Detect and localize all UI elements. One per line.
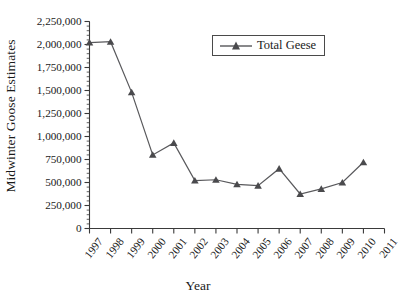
data-point-marker <box>275 165 283 172</box>
x-axis-title: Year <box>0 278 396 294</box>
data-point-marker <box>170 139 178 146</box>
y-tick-label: 750,000 <box>45 154 81 165</box>
y-tick-label: 1,250,000 <box>37 108 82 119</box>
data-point-marker <box>360 159 368 166</box>
y-tick-label: 1,500,000 <box>37 85 82 96</box>
y-tick-label: 500,000 <box>45 177 81 188</box>
y-tick-label: 2,000,000 <box>37 39 82 50</box>
chart-legend: Total Geese <box>212 35 325 56</box>
y-tick-label: 1,750,000 <box>37 62 82 73</box>
data-point-marker <box>149 151 157 158</box>
data-point-marker <box>128 89 136 96</box>
y-tick-label: 2,250,000 <box>37 16 82 27</box>
y-tick-label: 250,000 <box>45 200 81 211</box>
legend-entry-label: Total Geese <box>257 38 324 53</box>
y-tick-label: 0 <box>76 223 82 234</box>
legend-marker-icon <box>219 39 253 53</box>
y-tick-label: 1,000,000 <box>37 131 82 142</box>
